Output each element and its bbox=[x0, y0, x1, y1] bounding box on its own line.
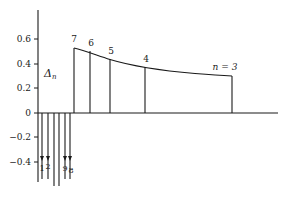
negative-arrow-group bbox=[40, 113, 72, 186]
neg-arrowhead-8 bbox=[68, 156, 72, 161]
y-tick-label-0: 0 bbox=[25, 108, 31, 118]
y-tick-label-0.2: 0.2 bbox=[17, 83, 31, 93]
bar-label-4: 4 bbox=[143, 54, 149, 64]
envelope-curve bbox=[74, 48, 232, 76]
neg-arrowhead-9 bbox=[63, 156, 67, 161]
neg-label-9: 9 bbox=[62, 164, 67, 173]
y-tick-label-0.6: 0.6 bbox=[17, 34, 32, 44]
neg-label-8: 8 bbox=[68, 166, 73, 175]
bar-label-6: 6 bbox=[88, 38, 94, 48]
neg-arrowhead-2 bbox=[46, 156, 50, 161]
y-axis-quantity-label: Δn bbox=[43, 67, 57, 81]
bar-label-n3: n = 3 bbox=[213, 62, 238, 72]
bar-label-7: 7 bbox=[71, 34, 77, 44]
bar-label-5: 5 bbox=[108, 46, 114, 56]
y-tick-label-0.4: 0.4 bbox=[17, 59, 32, 69]
y-tick-label--0.4: −0.4 bbox=[9, 157, 31, 167]
delta-symbol: Δ bbox=[43, 67, 52, 80]
figure-container: 0.6 0.4 0.2 0 −0.2 −0.4 Δn 7 6 5 4 n = 3 bbox=[0, 0, 285, 200]
delta-subscript: n bbox=[52, 73, 57, 81]
neg-arrowhead-1 bbox=[40, 156, 44, 161]
y-tick-label--0.2: −0.2 bbox=[9, 132, 31, 142]
neg-label-1: 1 bbox=[39, 164, 44, 173]
neg-label-2: 2 bbox=[45, 162, 50, 171]
delta-n-plot: 0.6 0.4 0.2 0 −0.2 −0.4 Δn 7 6 5 4 n = 3 bbox=[0, 0, 285, 200]
